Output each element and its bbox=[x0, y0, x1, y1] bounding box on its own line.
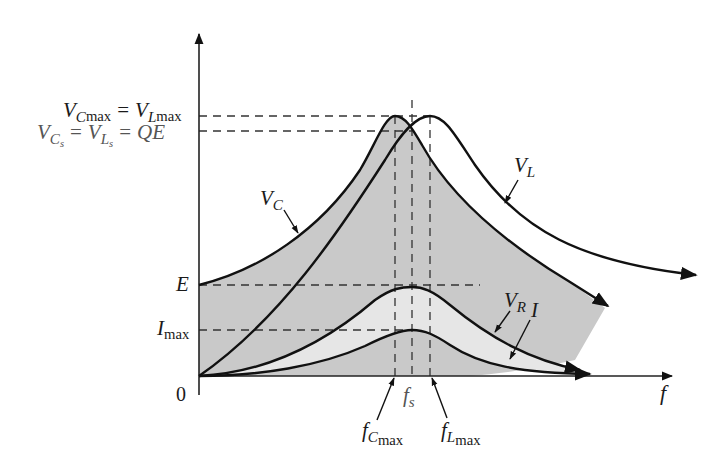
label-vc: VC bbox=[260, 188, 283, 209]
label-origin: 0 bbox=[176, 384, 186, 404]
label-imax: Imax bbox=[157, 318, 189, 339]
label-f-cmax: fCmax bbox=[362, 420, 403, 441]
label-x-axis-f: f bbox=[660, 382, 666, 404]
label-e: E bbox=[176, 274, 189, 295]
label-vl: VL bbox=[514, 155, 535, 176]
vc-shaded-region bbox=[199, 116, 605, 376]
resonance-plot bbox=[0, 0, 702, 459]
label-f-lmax: fLmax bbox=[441, 420, 481, 441]
label-f-s: fs bbox=[403, 385, 415, 406]
label-vs-qe: VCs=VLs=QE bbox=[37, 122, 165, 143]
label-vr: VR bbox=[504, 290, 526, 311]
label-i: I bbox=[531, 300, 538, 321]
label-vmax: VCmax=VLmax bbox=[63, 100, 182, 121]
